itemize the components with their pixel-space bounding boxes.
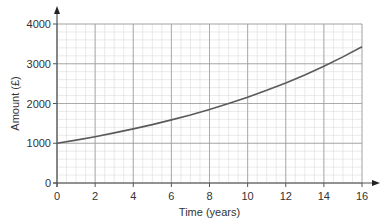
x-tick-label: 6	[168, 190, 174, 202]
y-tick-label: 3000	[27, 58, 51, 70]
exponential-growth-chart: 024681012141601000200030004000 Time (yea…	[0, 0, 385, 224]
x-axis-title: Time (years)	[179, 206, 240, 218]
x-tick-label: 4	[130, 190, 136, 202]
x-tick-label: 10	[242, 190, 254, 202]
tick-labels: 024681012141601000200030004000	[27, 18, 369, 202]
x-tick-label: 16	[356, 190, 368, 202]
x-axis-arrow-icon	[372, 180, 380, 186]
y-tick-label: 1000	[27, 137, 51, 149]
x-tick-label: 14	[318, 190, 330, 202]
y-axis-arrow-icon	[54, 6, 60, 14]
y-tick-label: 4000	[27, 18, 51, 30]
x-tick-label: 12	[280, 190, 292, 202]
x-tick-label: 2	[92, 190, 98, 202]
axes	[53, 6, 380, 187]
x-tick-label: 0	[54, 190, 60, 202]
y-axis-title: Amount (£)	[9, 76, 21, 130]
y-tick-label: 0	[45, 177, 51, 189]
y-tick-label: 2000	[27, 98, 51, 110]
x-tick-label: 8	[206, 190, 212, 202]
